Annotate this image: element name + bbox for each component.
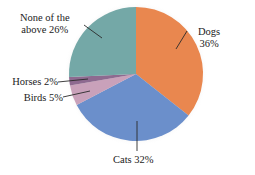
label-cats: Cats 32% (113, 154, 154, 166)
label-none-line1: None of the (20, 12, 70, 24)
label-none-of-the-above: None of the above 26% (20, 12, 70, 36)
label-birds: Birds 5% (18, 92, 63, 104)
label-dogs: Dogs 36% (198, 26, 220, 50)
label-none-line2: above 26% (20, 24, 70, 36)
pie-slice-none-of-the-above (69, 7, 136, 77)
pie-slices (69, 7, 203, 141)
label-dogs-name: Dogs (198, 26, 220, 38)
label-dogs-pct: 36% (198, 38, 220, 50)
label-horses: Horses 2% (6, 76, 58, 88)
